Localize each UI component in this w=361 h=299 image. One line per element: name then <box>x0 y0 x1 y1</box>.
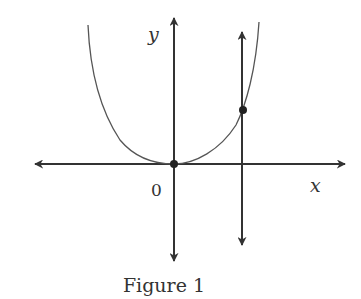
x-axis-label: x <box>310 174 321 196</box>
figure-diagram: y x 0 Figure 1 <box>0 0 361 299</box>
origin-label: 0 <box>151 180 162 200</box>
origin-point <box>170 160 178 168</box>
figure-1: y x 0 Figure 1 <box>0 0 361 299</box>
y-axis-label: y <box>147 23 159 45</box>
figure-caption: Figure 1 <box>123 274 205 296</box>
intersection-point <box>239 106 247 114</box>
